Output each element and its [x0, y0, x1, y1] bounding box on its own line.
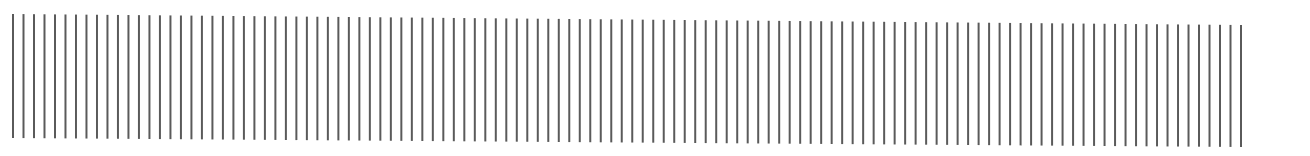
vertical-lines-graphic — [0, 0, 1310, 156]
